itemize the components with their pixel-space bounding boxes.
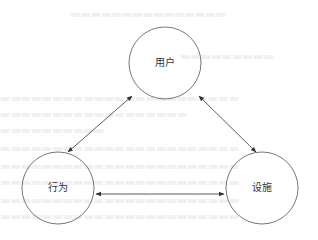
node-label-behavior: 行为: [22, 182, 94, 194]
node-label-user: 用户: [129, 57, 201, 69]
arrow-user-facility: [199, 96, 256, 152]
relationship-diagram: [0, 0, 318, 240]
node-label-facility: 设施: [226, 182, 298, 194]
arrow-user-behavior: [68, 96, 132, 152]
